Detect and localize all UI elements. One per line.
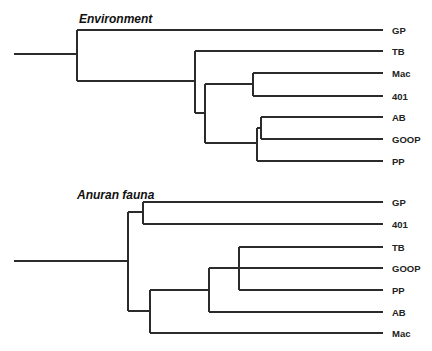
leaf-label: 401 [392, 219, 409, 230]
leaf-label: PP [392, 285, 405, 296]
leaf-label: TB [392, 46, 405, 57]
dendrogram-figure: Environment GPTBMac401ABGOOPPP Anuran fa… [0, 0, 432, 351]
leaf-label: GP [392, 25, 406, 36]
panel-title: Anuran fauna [76, 188, 155, 202]
anuran-fauna-dendrogram: Anuran fauna GP401TBGOOPPPABMac [14, 188, 421, 339]
leaf-label: AB [392, 307, 406, 318]
leaf-label: TB [392, 242, 405, 253]
leaf-label: GP [392, 197, 406, 208]
branches [14, 30, 383, 161]
panel-title: Environment [79, 12, 153, 26]
branches [14, 202, 383, 333]
leaf-label: Mac [392, 328, 410, 339]
leaf-labels: GP401TBGOOPPPABMac [392, 197, 421, 339]
leaf-label: GOOP [392, 134, 421, 145]
leaf-label: PP [392, 156, 405, 167]
leaf-label: AB [392, 112, 406, 123]
leaf-label: GOOP [392, 263, 421, 274]
leaf-label: 401 [392, 91, 409, 102]
environment-dendrogram: Environment GPTBMac401ABGOOPPP [14, 12, 421, 167]
leaf-label: Mac [392, 68, 410, 79]
leaf-labels: GPTBMac401ABGOOPPP [392, 25, 421, 167]
